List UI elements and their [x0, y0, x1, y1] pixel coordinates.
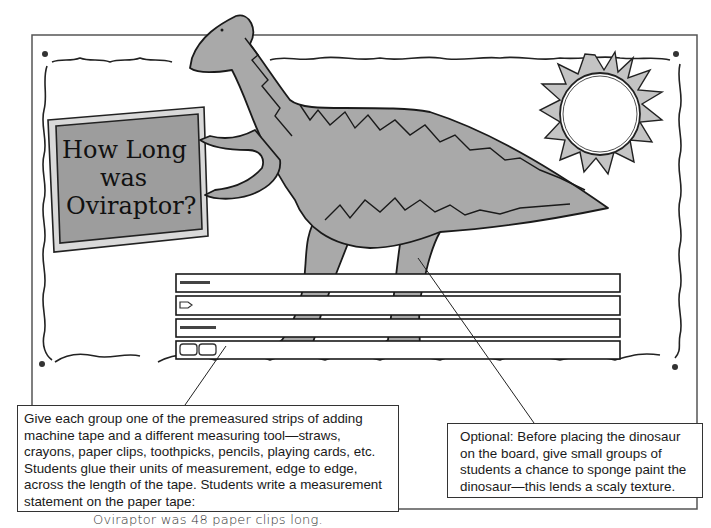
tape-strip-4 — [176, 341, 620, 359]
card-unit-2 — [199, 344, 216, 355]
sun-icon — [540, 52, 662, 174]
tape-strip-3 — [176, 319, 620, 337]
callout-left-text: Give each group one of the premeasured s… — [24, 411, 382, 509]
callout-left-example: Oviraptor was 48 paper clips long. — [24, 512, 392, 528]
callout-right-text: Optional: Before placing the dinosaur on… — [460, 429, 686, 494]
tack-top-left — [42, 51, 48, 57]
sign: How Long was Oviraptor? — [48, 107, 208, 252]
tape-strip-2 — [176, 296, 620, 315]
toothpick-unit — [180, 326, 216, 329]
sign-line-1: How Long — [62, 136, 187, 164]
tack-top-right — [673, 51, 679, 57]
callout-sponge-paint: Optional: Before placing the dinosaur on… — [447, 423, 703, 498]
tack-bottom-left — [39, 361, 45, 367]
sign-line-3: Oviraptor? — [66, 192, 197, 220]
dino-eye — [221, 29, 224, 32]
tape-strip-1 — [176, 274, 620, 292]
straw-unit — [180, 281, 210, 284]
sign-line-2: was — [100, 164, 147, 192]
card-unit-1 — [180, 344, 197, 355]
callout-tape-instructions: Give each group one of the premeasured s… — [17, 405, 399, 512]
tack-bottom-right — [672, 364, 678, 370]
